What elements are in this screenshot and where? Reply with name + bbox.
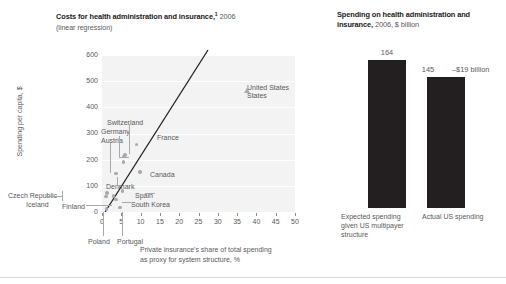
- bar-chart: 164 Expected spending given US multipaye…: [0, 0, 506, 284]
- bar-value-expected: 164: [362, 48, 412, 57]
- delta-annotation: –$19 billion: [452, 65, 489, 74]
- figure-root: Costs for health administration and insu…: [0, 0, 506, 284]
- bar-category-expected: Expected spending given US multipayer st…: [341, 212, 409, 239]
- bottom-divider: [0, 277, 506, 278]
- bar-actual-spending: [427, 77, 465, 208]
- bar-category-actual: Actual US spending: [422, 212, 490, 221]
- bar-expected-spending: [368, 60, 406, 208]
- bar-value-actual: 145: [403, 65, 453, 74]
